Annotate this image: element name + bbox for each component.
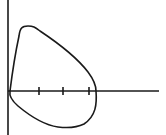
- closed-loop-curve: [10, 26, 97, 128]
- diagram-canvas: [0, 0, 166, 135]
